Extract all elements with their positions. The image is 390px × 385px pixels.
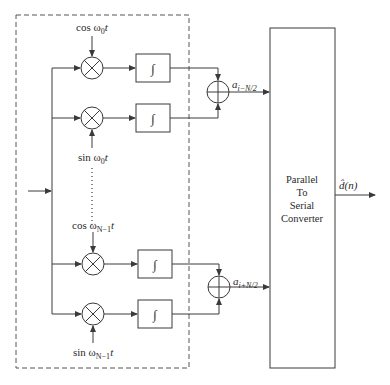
branch-cos-n-1: cos ωN−1t ∫ — [52, 219, 219, 278]
adder-icon-lower — [208, 276, 230, 298]
adder-output-label: ai+N/2 — [233, 275, 258, 290]
carrier-label: sin ωN−1t — [73, 346, 114, 361]
converter-line-3: Serial — [290, 200, 315, 211]
converter-line-1: Parallel — [286, 174, 318, 185]
adder-output-label: ai−N/2 — [232, 78, 257, 93]
multiplier-icon — [82, 253, 104, 275]
multiplier-icon — [81, 107, 103, 129]
output-label: d̂(n) — [339, 179, 358, 192]
parallel-to-serial-converter — [270, 28, 335, 368]
integral-icon: ∫ — [152, 257, 158, 273]
converter-line-4: Converter — [281, 213, 323, 224]
multiplier-icon — [81, 57, 103, 79]
carrier-label: cos ω0t — [76, 21, 109, 36]
branch-cos-0: cos ω0t ∫ — [52, 21, 218, 82]
branch-sin-0: sin ω0t ∫ — [52, 104, 218, 166]
integral-icon: ∫ — [150, 111, 156, 127]
carrier-label: sin ω0t — [78, 151, 109, 166]
converter-line-2: To — [297, 187, 308, 198]
receiver-diagram: cos ω0t ∫ sin ω0t ∫ ai−N/2 — [0, 0, 390, 385]
multiplier-icon — [82, 303, 104, 325]
integral-icon: ∫ — [150, 61, 156, 77]
integral-icon: ∫ — [152, 307, 158, 323]
branch-sin-n-1: sin ωN−1t ∫ — [52, 299, 219, 361]
carrier-label: cos ωN−1t — [72, 219, 115, 234]
adder-icon-upper — [207, 81, 229, 103]
